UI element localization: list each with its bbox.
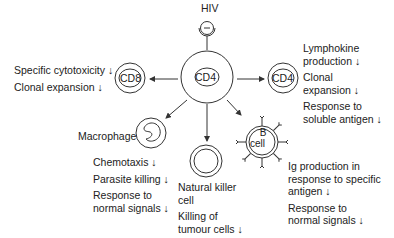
- right-cd4-effects: Lymphokine production ↓ Clonal expansion…: [303, 42, 382, 125]
- nk-label: Natural killer: [178, 181, 243, 194]
- b-cell-effects: Ig production in response to specific an…: [288, 160, 381, 227]
- b-cell-label: B: [256, 128, 270, 138]
- cd8-effects: Specific cytotoxicity ↓ Clonal expansion…: [14, 64, 113, 93]
- b-cell-label-2: cell: [250, 139, 265, 149]
- arrow-to-macrophage: [166, 100, 187, 118]
- hiv-virus-icon: [199, 22, 215, 51]
- right-cd4-label: CD4: [272, 72, 293, 85]
- cd8-effect: Specific cytotoxicity ↓: [14, 64, 113, 77]
- cd8-label: CD8: [120, 72, 141, 85]
- macrophage-cell-icon: [136, 118, 166, 148]
- macrophage-effects: Chemotaxis ↓ Parasite killing ↓ Response…: [93, 156, 169, 214]
- macrophage-label: Macrophage: [78, 130, 136, 143]
- cd8-effect: Clonal expansion ↓: [14, 81, 113, 94]
- nk-cell-icon: [190, 145, 222, 177]
- arrow-to-b-cell: [227, 100, 241, 115]
- hiv-label: HIV: [201, 2, 219, 15]
- nk-effects: Natural killer cell Killing of tumour ce…: [178, 181, 243, 235]
- center-cd4-label: CD4: [195, 71, 216, 84]
